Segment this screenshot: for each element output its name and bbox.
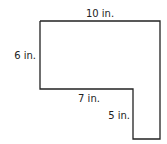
l-shape-outline (40, 21, 160, 139)
label-top: 10 in. (86, 8, 114, 19)
label-inner-vertical: 5 in. (108, 110, 130, 121)
l-shape-diagram: 10 in. 6 in. 7 in. 5 in. (0, 0, 167, 144)
label-left: 6 in. (14, 50, 36, 61)
label-inner-horizontal: 7 in. (78, 93, 100, 104)
